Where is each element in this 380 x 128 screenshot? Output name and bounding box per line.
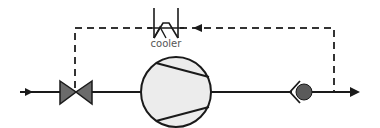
check-valve (290, 81, 312, 103)
compressor (141, 57, 211, 127)
inlet-arrow-icon (25, 88, 33, 96)
flow-arrow-left-icon (193, 24, 202, 32)
cooler: cooler (148, 8, 184, 49)
cooler-label: cooler (151, 38, 183, 49)
schematic-diagram: cooler (0, 0, 380, 128)
outlet-arrow-icon (350, 87, 360, 97)
